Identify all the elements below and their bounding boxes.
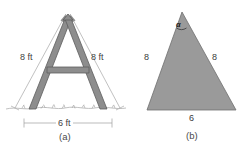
label-base-width: 6 ft bbox=[56, 119, 73, 128]
panel-b-graphics bbox=[147, 12, 236, 110]
caption-panel-a: (a) bbox=[59, 132, 71, 142]
label-triangle-left-side: 8 bbox=[144, 53, 149, 62]
geometry-figure: 8 ft 8 ft 6 ft (a) 8 8 6 (b) α bbox=[0, 0, 239, 153]
label-triangle-base: 6 bbox=[189, 114, 194, 123]
isosceles-triangle bbox=[147, 12, 236, 110]
a-frame-left-leg bbox=[29, 16, 71, 109]
a-frame-right-leg bbox=[65, 16, 107, 109]
ground-hatch-icon bbox=[6, 104, 126, 109]
figure-graphics bbox=[0, 0, 239, 153]
caption-panel-b: (b) bbox=[186, 131, 198, 141]
panel-a-graphics bbox=[6, 14, 126, 128]
label-apex-angle-alpha: α bbox=[176, 21, 181, 29]
label-left-leg-length: 8 ft bbox=[20, 53, 33, 62]
a-frame-crossbar bbox=[47, 67, 89, 73]
label-triangle-right-side: 8 bbox=[212, 53, 217, 62]
label-right-leg-length: 8 ft bbox=[91, 53, 104, 62]
